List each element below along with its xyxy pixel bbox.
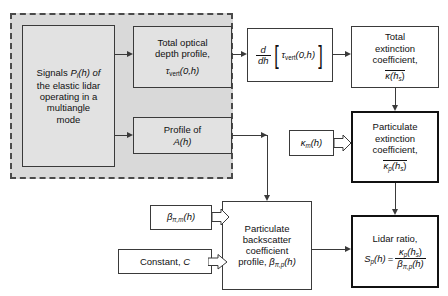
tau-subscript: vert	[169, 69, 179, 76]
beta-m-formula: βπ,m(h)	[151, 210, 211, 224]
node-derivative-operator[interactable]: d dh [ τvert(0,h) ]	[247, 28, 333, 82]
tau-formula: τvert(0,h)	[137, 65, 228, 77]
flowchart-canvas: Signals Pi(h) of the elastic lidar opera…	[0, 0, 448, 296]
backscatter-line3: coefficient	[246, 245, 289, 256]
lidar-ratio-denominator: βπ,p(h)	[395, 258, 426, 270]
node-signals[interactable]: Signals Pi(h) of the elastic lidar opera…	[22, 25, 115, 167]
node-particulate-extinction-coefficient[interactable]: Particulate extinction coefficient, κp(h…	[351, 111, 439, 183]
constant-label: Constant, C	[119, 255, 211, 268]
node-optical-depth-profile[interactable]: Total optical depth profile, τvert(0,h)	[133, 26, 232, 88]
edge-signals-to-tau	[115, 54, 127, 55]
kappa-total-formula: κ(hs)	[355, 70, 435, 83]
kappa-p-formula: κp(hs)	[356, 160, 434, 173]
tau-line2: depth profile,	[155, 48, 210, 59]
edge-derivative-to-kappa-total	[333, 54, 345, 55]
kappa-total-line1: Total	[385, 31, 405, 42]
arrowhead-tau-to-derivative	[241, 51, 247, 57]
signals-line2: the elastic lidar	[37, 80, 100, 91]
derivative-fraction: d dh	[256, 45, 271, 66]
tau-line1: Total optical	[157, 37, 207, 48]
derivative-numerator: d	[259, 45, 268, 55]
block-arrow-beta-m-to-backscatter	[212, 208, 230, 226]
backscatter-line4: profile,	[238, 256, 267, 267]
signals-line3: operating in a	[40, 91, 98, 102]
block-arrow-kappa-m-to-kappa-p	[334, 134, 352, 152]
arrowhead-backscatter-to-lidar-ratio	[345, 246, 351, 252]
arrowhead-signals-to-a-profile	[127, 132, 133, 138]
a-profile-arg: (h)	[180, 136, 192, 147]
kappa-p-line2: extinction	[375, 133, 415, 144]
node-a-profile[interactable]: Profile of A(h)	[133, 117, 232, 154]
bracket-open-icon: [	[274, 45, 279, 65]
backscatter-line2: backscatter	[243, 234, 292, 245]
derivative-operand: τvert(0,h)	[282, 49, 316, 61]
node-constant-input[interactable]: Constant, C	[118, 249, 212, 274]
lidar-ratio-fraction: κp(hs) βπ,p(h)	[395, 247, 426, 270]
edge-a-profile-to-backscatter-v	[267, 135, 268, 195]
lidar-ratio-formula: Sp(h) = κp(hs) βπ,p(h)	[356, 247, 434, 270]
arrowhead-derivative-to-kappa-total	[345, 51, 351, 57]
arrowhead-kappa-p-to-lidar-ratio	[392, 209, 398, 215]
edge-kappa-total-to-kappa-p	[395, 88, 396, 105]
kappa-p-line1: Particulate	[373, 121, 418, 132]
signals-line4: multiangle	[47, 102, 90, 113]
edge-kappa-p-to-lidar-ratio	[395, 183, 396, 209]
backscatter-line1: Particulate	[245, 223, 290, 234]
node-molecular-backscatter-input[interactable]: βπ,m(h)	[150, 205, 212, 230]
signals-line5: mode	[57, 114, 81, 125]
kappa-p-line3: coefficient,	[372, 144, 417, 155]
kappa-m-formula: κm(h)	[290, 136, 333, 150]
lidar-ratio-numerator: κp(hs)	[397, 247, 424, 258]
kappa-total-line3: coefficient,	[372, 54, 417, 65]
arrowhead-a-profile-to-backscatter	[264, 195, 270, 201]
bracket-close-icon: ]	[318, 45, 323, 65]
arrowhead-signals-to-tau	[127, 51, 133, 57]
lidar-ratio-equals: =	[388, 253, 394, 264]
arrowhead-a-profile-turn	[261, 132, 267, 138]
node-particulate-backscatter-profile[interactable]: Particulate backscatter coefficient prof…	[222, 201, 312, 290]
edge-signals-to-a-profile	[115, 135, 127, 136]
tau-argument: (0,h)	[180, 65, 200, 76]
arrowhead-kappa-total-to-kappa-p	[392, 105, 398, 111]
signals-line1: Signals	[37, 67, 68, 78]
node-molecular-extinction-input[interactable]: κm(h)	[289, 130, 334, 156]
a-profile-line1: Profile of	[164, 124, 202, 135]
kappa-total-line2: extinction	[375, 43, 415, 54]
node-lidar-ratio[interactable]: Lidar ratio, Sp(h) = κp(hs) βπ,p(h)	[351, 215, 439, 288]
edge-backscatter-to-lidar-ratio	[312, 249, 345, 250]
lidar-ratio-lhs: Sp(h)	[364, 253, 385, 265]
backscatter-formula: βπ,p(h)	[269, 256, 296, 267]
kappa-total-overbar: κ(hs)	[385, 70, 405, 83]
node-total-extinction-coefficient[interactable]: Total extinction coefficient, κ(hs)	[351, 26, 439, 88]
signals-arg: (h) of	[78, 67, 100, 78]
derivative-denominator: dh	[256, 55, 271, 66]
block-arrow-constant-to-backscatter	[208, 248, 230, 270]
lidar-ratio-line1: Lidar ratio,	[373, 233, 418, 244]
kappa-p-overbar: κp(hs)	[383, 160, 406, 173]
